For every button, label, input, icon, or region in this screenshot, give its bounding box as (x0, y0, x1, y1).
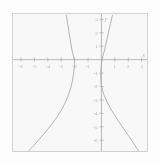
curve-left-branch (28, 15, 74, 151)
y-tick-label: -1 (93, 71, 98, 76)
x-tick-label: -1 (86, 64, 91, 69)
x-tick-label: -5 (32, 64, 37, 69)
plot-frame: -6-5-4-3-2-1123321-1-2-3-4-5-6 xy (12, 13, 148, 152)
curves-layer (28, 15, 138, 151)
y-tick-label: -2 (93, 84, 98, 89)
y-tick-label: -3 (93, 98, 98, 103)
x-tick-label: 3 (140, 64, 143, 69)
y-tick-label: 2 (95, 31, 98, 36)
curve-right-branch (101, 15, 139, 150)
graph-figure: -6-5-4-3-2-1123321-1-2-3-4-5-6 xy (0, 0, 159, 164)
y-tick-label: -6 (93, 138, 98, 143)
y-axis-label: y (104, 16, 108, 22)
y-tick-label: 1 (95, 44, 98, 49)
x-tick-label: 1 (114, 64, 117, 69)
tick-labels-layer: -6-5-4-3-2-1123321-1-2-3-4-5-6 (19, 17, 143, 143)
tick-marks-layer (21, 19, 142, 140)
x-tick-label: -6 (19, 64, 24, 69)
axis-name-labels: xy (104, 16, 146, 58)
x-tick-label: 2 (127, 64, 130, 69)
y-tick-label: 3 (95, 17, 98, 22)
x-tick-label: -4 (46, 64, 51, 69)
y-tick-label: -5 (93, 125, 98, 130)
x-axis-label: x (142, 52, 146, 58)
y-tick-label: -4 (93, 111, 98, 116)
plot-canvas: -6-5-4-3-2-1123321-1-2-3-4-5-6 xy (13, 14, 147, 151)
figure-fade-layer: -6-5-4-3-2-1123321-1-2-3-4-5-6 xy (0, 0, 159, 164)
axes-layer (13, 14, 147, 151)
x-tick-label: -3 (59, 64, 64, 69)
